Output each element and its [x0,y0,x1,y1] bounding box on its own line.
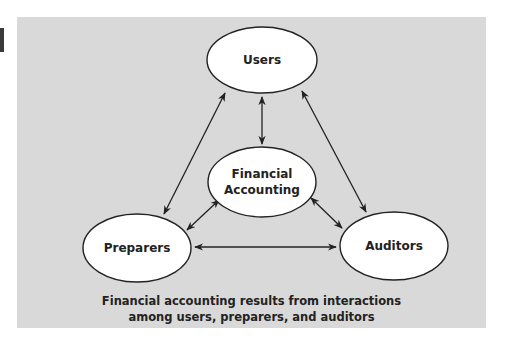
node-financial-accounting: Financial Accounting [208,147,316,217]
caption-line-1: Financial accounting results from intera… [17,293,486,309]
node-users-label: Users [243,53,281,67]
node-auditors-label: Auditors [365,239,423,253]
diagram-caption: Financial accounting results from intera… [17,293,486,325]
arrow-financial-accounting-auditors [311,198,342,228]
arrow-financial-accounting-preparers [187,200,219,230]
node-financial-accounting-label-line2: Accounting [224,183,300,197]
node-preparers-label: Preparers [104,241,171,255]
node-financial-accounting-label-line1: Financial [232,167,293,181]
node-auditors: Auditors [340,212,448,280]
node-preparers: Preparers [83,214,191,282]
node-users: Users [207,27,317,93]
caption-line-2: among users, preparers, and auditors [17,309,486,325]
